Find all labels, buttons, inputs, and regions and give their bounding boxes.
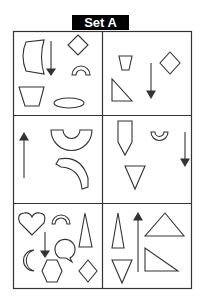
diamond-shape — [160, 52, 180, 74]
semicircle-cup-shape — [51, 130, 92, 151]
arch-shape — [52, 215, 70, 224]
inverted-triangle-shape — [112, 260, 132, 283]
cell-r3c1 — [19, 213, 97, 282]
hexagon-shape — [42, 260, 62, 282]
arrowhead-down-icon — [147, 91, 155, 98]
cell-r2c1 — [20, 130, 92, 189]
arrowhead-down-icon — [47, 69, 55, 75]
arrowhead-down-icon — [41, 251, 49, 257]
cell-r1c2 — [112, 52, 180, 101]
right-triangle-shape — [112, 79, 132, 101]
small-cup-shape — [151, 132, 168, 141]
pentagon-arrow-shape — [118, 121, 132, 155]
cell-r2c2 — [118, 121, 189, 189]
shape-grid — [0, 0, 203, 302]
triangle-shape — [145, 213, 184, 236]
heart-shape — [19, 213, 45, 235]
arrowhead-up-icon — [134, 213, 142, 220]
trapezoid-shape — [19, 87, 44, 106]
tall-triangle-shape — [79, 213, 92, 247]
ellipse-shape — [54, 98, 84, 108]
cell-r3c2 — [112, 213, 184, 283]
arrowhead-down-icon — [181, 159, 189, 166]
tall-triangle-shape — [112, 213, 124, 248]
arrowhead-up-icon — [20, 133, 28, 140]
small-trapezoid-shape — [119, 56, 132, 70]
curved-rectangle-shape — [23, 40, 44, 74]
diamond-shape — [79, 260, 97, 282]
curved-arc-segment-shape — [56, 158, 88, 189]
semicircle-arch-shape — [72, 66, 90, 75]
crescent-shape — [24, 250, 35, 271]
right-triangle-shape — [145, 248, 178, 271]
cell-r1c1 — [19, 35, 90, 108]
inverted-triangle-shape — [125, 166, 145, 189]
speech-bubble-shape — [55, 239, 75, 262]
diamond-shape — [68, 35, 88, 55]
